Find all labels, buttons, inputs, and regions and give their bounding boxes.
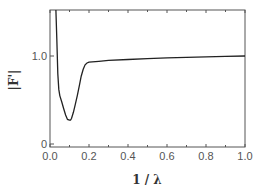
x-tick-label: 0.0 bbox=[42, 150, 57, 162]
plot-frame bbox=[50, 10, 245, 147]
chart: 0.00.20.40.60.81.0 01.0 1 / λ |F'| bbox=[0, 0, 262, 190]
x-tick-label: 0.4 bbox=[120, 150, 135, 162]
series-line bbox=[56, 10, 245, 120]
y-axis: 01.0 bbox=[32, 50, 54, 150]
x-tick-label: 0.2 bbox=[81, 150, 96, 162]
y-tick-label: 1.0 bbox=[32, 50, 47, 62]
x-axis: 0.00.20.40.60.81.0 bbox=[42, 10, 252, 162]
y-axis-title: |F'| bbox=[7, 70, 21, 91]
x-tick-label: 1.0 bbox=[237, 150, 252, 162]
y-tick-label: 0 bbox=[41, 138, 47, 150]
x-tick-label: 0.6 bbox=[159, 150, 174, 162]
x-axis-title: 1 / λ bbox=[132, 173, 162, 187]
x-tick-label: 0.8 bbox=[198, 150, 213, 162]
